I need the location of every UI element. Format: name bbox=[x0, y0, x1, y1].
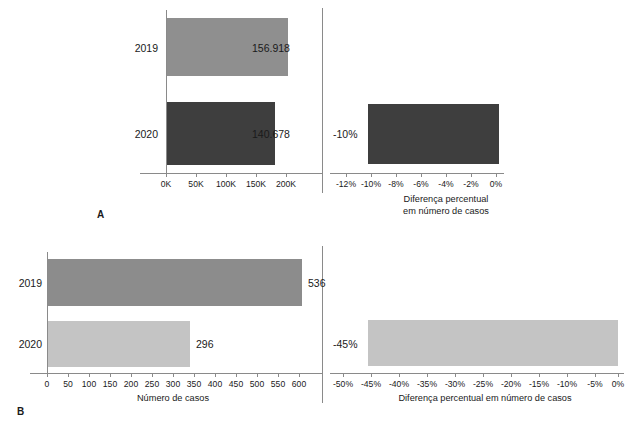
panel-b-right-axis-title: Diferença percentual em número de casos bbox=[375, 392, 595, 404]
tick-mark bbox=[371, 173, 372, 177]
panel-a-left-x-axis bbox=[140, 173, 322, 174]
tick-mark bbox=[299, 373, 300, 377]
xtick-label: 500 bbox=[250, 379, 264, 389]
xtick-label: 0K bbox=[161, 179, 172, 189]
tick-mark bbox=[166, 173, 167, 177]
tick-mark bbox=[68, 373, 69, 377]
tick-mark bbox=[371, 373, 372, 377]
tick-mark bbox=[131, 373, 132, 377]
tick-mark bbox=[483, 373, 484, 377]
tick-mark bbox=[236, 373, 237, 377]
bar-b-2020 bbox=[48, 321, 190, 367]
tick-mark bbox=[455, 373, 456, 377]
xtick-label: 450 bbox=[229, 379, 243, 389]
value-label-a-2019: 156.918 bbox=[252, 42, 290, 54]
panel-a-divider bbox=[322, 8, 323, 193]
tick-mark bbox=[471, 173, 472, 177]
xtick-label: 100 bbox=[82, 379, 96, 389]
tick-mark bbox=[539, 373, 540, 377]
tick-mark bbox=[47, 373, 48, 377]
xtick-label: 50 bbox=[63, 379, 73, 389]
panel-letter-b: B bbox=[17, 406, 24, 417]
xtick-label: 0 bbox=[45, 379, 50, 389]
tick-mark bbox=[215, 373, 216, 377]
value-label-b-2019: 536 bbox=[308, 277, 326, 289]
xtick-label: -8% bbox=[388, 179, 403, 189]
panel-a-right-axis-title-line2: em número de casos bbox=[356, 205, 536, 217]
panel-b: 2019 2020 536 296 0 50 100 150 200 bbox=[0, 240, 636, 436]
tick-mark bbox=[421, 173, 422, 177]
bar-b-2019 bbox=[48, 259, 302, 306]
panel-b-left-axis-title: Número de casos bbox=[83, 392, 263, 404]
xtick-label: 0% bbox=[612, 379, 624, 389]
tick-mark bbox=[110, 373, 111, 377]
tick-mark bbox=[567, 373, 568, 377]
xtick-label: 550 bbox=[271, 379, 285, 389]
cat-label-b-2019: 2019 bbox=[0, 277, 42, 289]
tick-mark bbox=[399, 373, 400, 377]
xtick-label: 0% bbox=[490, 179, 502, 189]
value-label-a-2020: 140.678 bbox=[252, 128, 290, 140]
xtick-label: 50K bbox=[188, 179, 203, 189]
panel-b-divider bbox=[322, 246, 323, 403]
value-label-a-diff: -10% bbox=[333, 128, 358, 140]
tick-mark bbox=[618, 373, 619, 377]
xtick-label: 100K bbox=[216, 179, 236, 189]
tick-mark bbox=[194, 373, 195, 377]
xtick-label: -5% bbox=[587, 379, 602, 389]
tick-mark bbox=[427, 373, 428, 377]
xtick-label: 150K bbox=[246, 179, 266, 189]
xtick-label: 400 bbox=[208, 379, 222, 389]
xtick-label: 200K bbox=[276, 179, 296, 189]
bar-a-diff-2020 bbox=[368, 104, 499, 164]
xtick-label: -15% bbox=[529, 379, 549, 389]
xtick-label: -35% bbox=[417, 379, 437, 389]
bar-b-diff-2020 bbox=[368, 320, 618, 366]
tick-mark bbox=[511, 373, 512, 377]
value-label-b-diff: -45% bbox=[333, 338, 358, 350]
xtick-label: 150 bbox=[103, 379, 117, 389]
tick-mark bbox=[196, 173, 197, 177]
panel-a-right-axis-title-line1: Diferença percentual bbox=[356, 193, 536, 205]
xtick-label: 200 bbox=[124, 379, 138, 389]
tick-mark bbox=[173, 373, 174, 377]
tick-mark bbox=[256, 173, 257, 177]
tick-mark bbox=[152, 373, 153, 377]
xtick-label: -45% bbox=[361, 379, 381, 389]
tick-mark bbox=[396, 173, 397, 177]
panel-a-right-x-axis bbox=[330, 173, 504, 174]
tick-mark bbox=[278, 373, 279, 377]
xtick-label: 600 bbox=[292, 379, 306, 389]
tick-mark bbox=[286, 173, 287, 177]
value-label-b-2020: 296 bbox=[196, 338, 214, 350]
xtick-label: -25% bbox=[473, 379, 493, 389]
xtick-label: 250 bbox=[145, 379, 159, 389]
xtick-label: -10% bbox=[557, 379, 577, 389]
panel-a: 2019 2020 156.918 140.678 0K 50K 100K 15… bbox=[0, 0, 636, 240]
tick-mark bbox=[346, 173, 347, 177]
cat-label-a-2020: 2020 bbox=[118, 128, 158, 140]
tick-mark bbox=[595, 373, 596, 377]
xtick-label: -6% bbox=[413, 179, 428, 189]
xtick-label: -12% bbox=[336, 179, 356, 189]
panel-letter-a: A bbox=[97, 209, 104, 220]
tick-mark bbox=[89, 373, 90, 377]
xtick-label: -40% bbox=[389, 379, 409, 389]
panel-b-right-x-axis bbox=[330, 373, 624, 374]
xtick-label: 350 bbox=[187, 379, 201, 389]
tick-mark bbox=[226, 173, 227, 177]
xtick-label: -10% bbox=[361, 179, 381, 189]
tick-mark bbox=[496, 173, 497, 177]
xtick-label: -30% bbox=[445, 379, 465, 389]
tick-mark bbox=[343, 373, 344, 377]
cat-label-a-2019: 2019 bbox=[118, 42, 158, 54]
xtick-label: 300 bbox=[166, 379, 180, 389]
figure-root: 2019 2020 156.918 140.678 0K 50K 100K 15… bbox=[0, 0, 636, 436]
cat-label-b-2020: 2020 bbox=[0, 338, 42, 350]
tick-mark bbox=[257, 373, 258, 377]
xtick-label: -4% bbox=[438, 179, 453, 189]
xtick-label: -2% bbox=[463, 179, 478, 189]
xtick-label: -20% bbox=[501, 379, 521, 389]
xtick-label: -50% bbox=[333, 379, 353, 389]
tick-mark bbox=[446, 173, 447, 177]
